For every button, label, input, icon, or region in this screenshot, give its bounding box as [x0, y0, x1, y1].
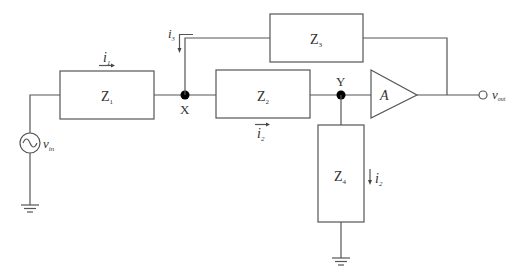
source-wire-top: [30, 95, 60, 133]
i2-z4-label: i2: [375, 171, 383, 188]
ground-icon: [21, 205, 39, 212]
i1-label: i1: [103, 50, 110, 67]
current-i2-z4: i2: [368, 169, 383, 188]
amplifier-triangle-icon: [371, 70, 417, 118]
current-i2-top: i2: [255, 123, 270, 144]
input-source: vin: [20, 95, 60, 212]
amplifier: A: [371, 70, 417, 118]
output-label: vout: [492, 87, 506, 102]
current-i3: i3: [168, 26, 193, 53]
impedance-z1: Z1: [60, 71, 154, 119]
node-y-label: Y: [336, 74, 346, 89]
source-label: vin: [43, 136, 55, 153]
current-i1: i1: [99, 50, 115, 68]
ground-icon: [332, 258, 350, 265]
circuit-diagram: vin Z1 i1 X i3 Z3 Z2 i: [0, 0, 522, 280]
impedance-z4: Z4: [318, 125, 364, 222]
i3-label: i3: [168, 26, 175, 42]
impedance-z2: Z2: [216, 70, 310, 118]
arrow-down-icon: [180, 35, 194, 49]
output-terminal-icon: [479, 91, 487, 99]
impedance-z3: Z3: [270, 14, 363, 62]
amplifier-label: A: [379, 88, 389, 103]
node-x-label: X: [180, 102, 190, 117]
i2-label: i2: [257, 126, 265, 143]
